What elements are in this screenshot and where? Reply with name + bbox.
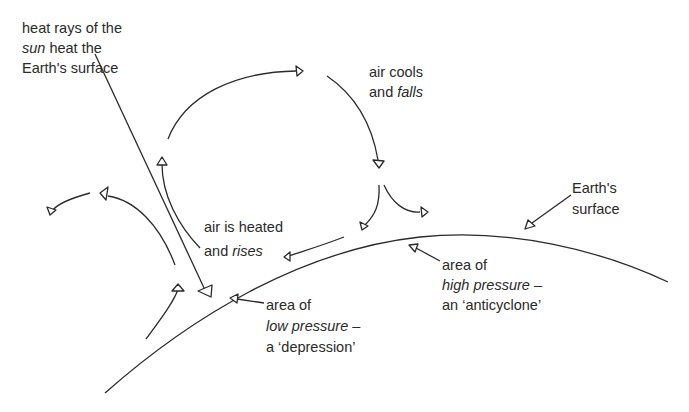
arrowhead-icon <box>100 187 108 200</box>
convection-diagram: heat rays of the sun heat the Earth's su… <box>0 0 689 412</box>
sun-ray-arrow <box>95 54 212 297</box>
rising-air-arrow-lower <box>146 284 184 339</box>
descending-air-arrow-left <box>360 185 379 230</box>
label-air-cools: air cools and falls <box>369 64 427 100</box>
arrowhead-icon <box>198 285 212 297</box>
outflow-arrow-left <box>47 193 90 215</box>
rising-air-arrow-left <box>100 187 175 265</box>
label-air-heated: air is heated and rises <box>204 219 287 259</box>
label-sun-heat: heat rays of the sun heat the Earth's su… <box>22 20 126 76</box>
surface-flow-arrow <box>284 237 344 261</box>
arrowhead-icon <box>421 207 428 217</box>
arrowhead-icon <box>409 244 418 252</box>
descending-air-arrow-right <box>384 185 428 217</box>
arrowhead-icon <box>296 66 303 76</box>
high-pressure-pointer <box>409 244 440 261</box>
arrowhead-icon <box>157 157 167 165</box>
label-high-pressure: area of high pressure – an ‘anticyclone’ <box>442 257 546 313</box>
label-low-pressure: area of low pressure – a ‘depression’ <box>266 297 364 355</box>
low-pressure-pointer <box>230 294 264 303</box>
upper-air-arc-arrow <box>168 66 303 139</box>
earth-surface-pointer <box>525 195 571 229</box>
earth-surface-curve <box>105 235 668 393</box>
arrowhead-icon <box>172 284 184 291</box>
arrowhead-icon <box>373 160 384 168</box>
arrowhead-icon <box>284 252 290 261</box>
label-earth-surface: Earth's surface <box>572 180 621 217</box>
